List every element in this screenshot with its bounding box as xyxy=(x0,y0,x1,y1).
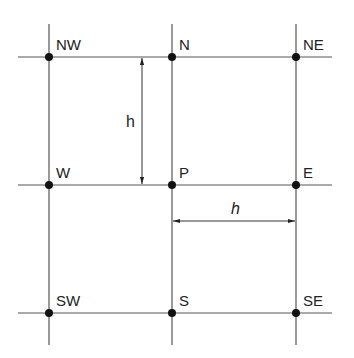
grid-svg: NW N NE W P E SW S SE h h xyxy=(0,0,354,358)
label-n: N xyxy=(179,36,190,53)
node-sw xyxy=(45,309,53,317)
label-nw: NW xyxy=(56,36,82,53)
label-p: P xyxy=(179,164,189,181)
label-w: W xyxy=(56,164,71,181)
label-ne: NE xyxy=(303,36,324,53)
node-se xyxy=(292,309,300,317)
node-n xyxy=(168,53,176,61)
label-se: SE xyxy=(303,292,323,309)
vertical-dimension-label: h xyxy=(126,113,135,130)
node-p xyxy=(168,181,176,189)
node-s xyxy=(168,309,176,317)
node-e xyxy=(292,181,300,189)
horizontal-dimension-label: h xyxy=(231,200,240,217)
node-nw xyxy=(45,53,53,61)
label-sw: SW xyxy=(56,292,81,309)
label-e: E xyxy=(303,164,313,181)
node-w xyxy=(45,181,53,189)
label-s: S xyxy=(179,292,189,309)
stencil-diagram: NW N NE W P E SW S SE h h xyxy=(0,0,354,358)
node-ne xyxy=(292,53,300,61)
